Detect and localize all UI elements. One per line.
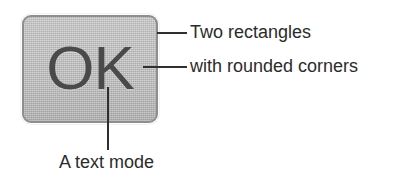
annotation-label-rounded-corners: with rounded corners [190, 57, 358, 75]
leader-line-two-rectangles [157, 32, 187, 34]
ok-button[interactable]: OK [22, 15, 158, 123]
ok-button-label: OK [24, 37, 156, 99]
diagram-canvas: OK Two rectangles with rounded corners A… [0, 0, 397, 184]
annotation-label-text-mode: A text mode [59, 153, 154, 171]
annotation-label-two-rectangles: Two rectangles [190, 23, 311, 41]
